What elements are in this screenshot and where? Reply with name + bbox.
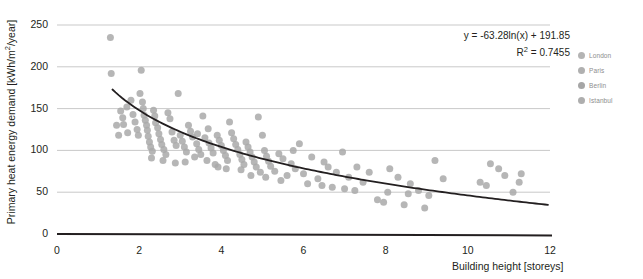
scatter-point bbox=[139, 98, 146, 105]
x-axis-tick-label: 2 bbox=[127, 244, 151, 256]
chart-container: Primary heat energy demand [kWh/m2/year]… bbox=[0, 0, 643, 279]
scatter-point bbox=[425, 192, 432, 199]
legend-item[interactable]: Istanbul bbox=[578, 93, 640, 107]
scatter-point bbox=[138, 67, 145, 74]
x-axis-tick-label: 4 bbox=[209, 244, 233, 256]
scatter-point bbox=[421, 205, 428, 212]
y-axis-tick-label: 100 bbox=[14, 143, 48, 155]
scatter-point bbox=[277, 177, 284, 184]
scatter-point bbox=[394, 174, 401, 181]
scatter-point bbox=[182, 159, 189, 166]
x-axis-title: Building height [storeys] bbox=[452, 260, 563, 272]
x-axis-tick-label: 12 bbox=[538, 244, 562, 256]
scatter-point bbox=[136, 90, 143, 97]
scatter-point bbox=[215, 164, 222, 171]
scatter-point bbox=[329, 184, 336, 191]
scatter-point bbox=[175, 90, 182, 97]
scatter-point bbox=[223, 165, 230, 172]
scatter-point bbox=[483, 182, 490, 189]
scatter-point bbox=[135, 132, 142, 139]
r-squared-text: R2 = 0.7455 bbox=[400, 45, 570, 58]
scatter-point bbox=[107, 34, 114, 41]
scatter-point bbox=[259, 132, 266, 139]
scatter-point bbox=[501, 172, 508, 179]
scatter-point bbox=[353, 164, 360, 171]
scatter-point bbox=[339, 149, 346, 156]
scatter-point bbox=[386, 165, 393, 172]
legend: LondonParisBerlinIstanbul bbox=[578, 48, 640, 108]
legend-item-label: Paris bbox=[589, 67, 604, 74]
scatter-point bbox=[262, 174, 269, 181]
scatter-point bbox=[224, 157, 231, 164]
scatter-point bbox=[238, 166, 245, 173]
scatter-point bbox=[255, 113, 262, 120]
scatter-point bbox=[257, 169, 264, 176]
scatter-point bbox=[199, 113, 206, 120]
scatter-point bbox=[150, 107, 157, 114]
scatter-point bbox=[226, 118, 233, 125]
scatter-point bbox=[203, 157, 210, 164]
scatter-point bbox=[300, 170, 307, 177]
scatter-point bbox=[314, 175, 321, 182]
scatter-point bbox=[210, 149, 217, 156]
scatter-point bbox=[134, 126, 141, 133]
x-axis-tick-label: 6 bbox=[292, 244, 316, 256]
legend-marker-icon bbox=[578, 97, 585, 104]
scatter-point bbox=[318, 182, 325, 189]
scatter-point bbox=[431, 157, 438, 164]
scatter-point bbox=[477, 179, 484, 186]
scatter-point bbox=[366, 169, 373, 176]
scatter-point bbox=[120, 121, 127, 128]
scatter-point bbox=[117, 108, 124, 115]
y-axis-tick-label: 50 bbox=[14, 185, 48, 197]
scatter-point bbox=[405, 190, 412, 197]
scatter-point bbox=[191, 154, 198, 161]
scatter-point bbox=[166, 115, 173, 122]
legend-item[interactable]: Paris bbox=[578, 63, 640, 77]
scatter-point bbox=[351, 187, 358, 194]
y-axis-tick-label: 150 bbox=[14, 102, 48, 114]
scatter-point bbox=[284, 172, 291, 179]
legend-marker-icon bbox=[578, 52, 585, 59]
legend-item-label: Berlin bbox=[589, 82, 606, 89]
scatter-point bbox=[148, 154, 155, 161]
scatter-point bbox=[115, 132, 122, 139]
scatter-point bbox=[154, 124, 161, 131]
legend-item[interactable]: Berlin bbox=[578, 78, 640, 92]
legend-item-label: Istanbul bbox=[589, 97, 613, 104]
scatter-point bbox=[401, 201, 408, 208]
legend-marker-icon bbox=[578, 82, 585, 89]
scatter-point bbox=[173, 142, 180, 149]
scatter-point bbox=[518, 170, 525, 177]
scatter-point bbox=[124, 129, 131, 136]
y-axis-tick-label: 200 bbox=[14, 60, 48, 72]
legend-item-label: London bbox=[589, 52, 611, 59]
scatter-point bbox=[516, 179, 523, 186]
scatter-point bbox=[172, 159, 179, 166]
scatter-point bbox=[183, 149, 190, 156]
scatter-point bbox=[308, 154, 315, 161]
scatter-point bbox=[145, 133, 152, 140]
scatter-point bbox=[495, 165, 502, 172]
legend-item[interactable]: London bbox=[578, 48, 640, 62]
scatter-point bbox=[197, 151, 204, 158]
scatter-point bbox=[108, 70, 115, 77]
scatter-point bbox=[487, 160, 494, 167]
scatter-point bbox=[160, 157, 167, 164]
scatter-point bbox=[119, 114, 126, 121]
scatter-point bbox=[440, 175, 447, 182]
trendline-equation: y = -63.28ln(x) + 191.85 R2 = 0.7455 bbox=[400, 30, 570, 58]
x-axis-tick-label: 0 bbox=[45, 244, 69, 256]
scatter-point bbox=[205, 125, 212, 132]
scatter-point bbox=[380, 199, 387, 206]
scatter-point bbox=[113, 122, 120, 129]
equation-text: y = -63.28ln(x) + 191.85 bbox=[400, 30, 570, 41]
scatter-point bbox=[130, 111, 137, 118]
scatter-point bbox=[341, 185, 348, 192]
x-axis-tick-label: 10 bbox=[456, 244, 480, 256]
scatter-point bbox=[194, 130, 201, 137]
scatter-point bbox=[325, 164, 332, 171]
scatter-point bbox=[132, 118, 139, 125]
scatter-point bbox=[271, 168, 278, 175]
scatter-point bbox=[279, 155, 286, 162]
